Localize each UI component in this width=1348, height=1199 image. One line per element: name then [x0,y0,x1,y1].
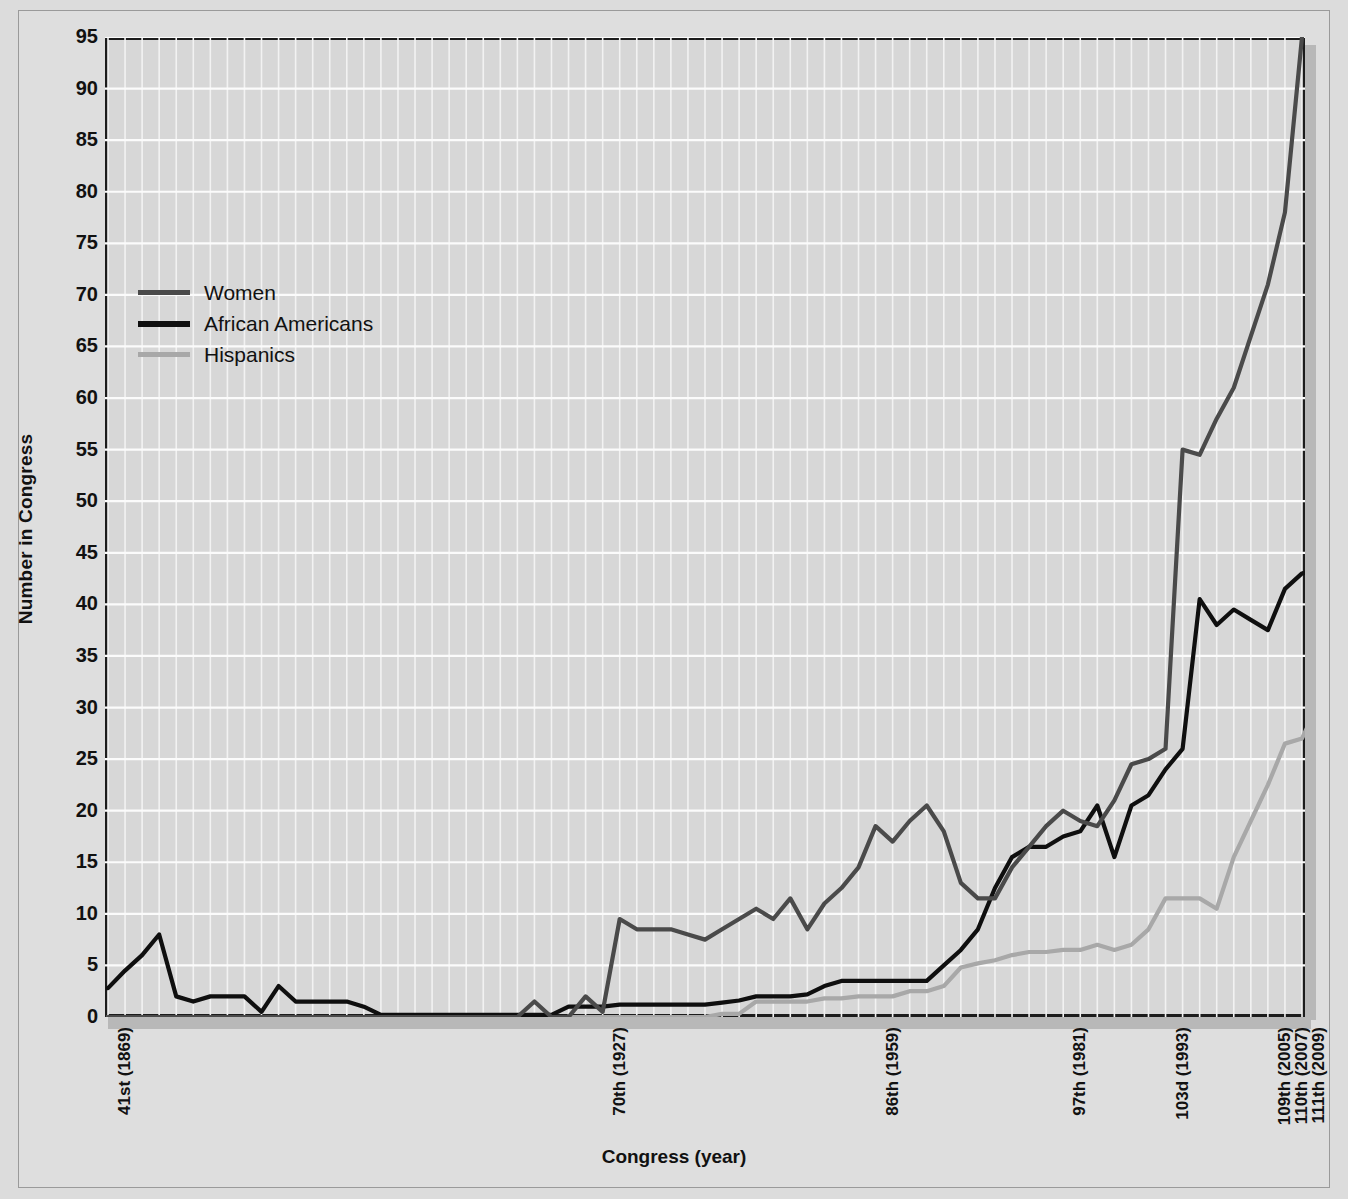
plot-wrapper [105,37,1305,1017]
y-tick-label: 20 [52,800,98,820]
legend-swatch-icon [138,290,190,295]
y-tick-label: 70 [52,284,98,304]
y-tick-label: 90 [52,78,98,98]
y-tick-label: 50 [52,490,98,510]
x-tick-label: 86th (1959) [883,1027,903,1116]
y-tick-label: 80 [52,181,98,201]
y-tick-label: 30 [52,697,98,717]
legend-item: Women [138,277,468,308]
y-tick-label: 85 [52,129,98,149]
y-tick-label: 60 [52,387,98,407]
legend-label: African Americans [204,312,373,336]
x-tick-label: 103d (1993) [1173,1027,1193,1120]
legend-label: Women [204,281,276,305]
y-tick-label: 65 [52,335,98,355]
y-tick-label: 35 [52,645,98,665]
legend-item: Hispanics [138,339,468,370]
chart-figure: 95908580757065605550454035302520151050 N… [0,0,1348,1199]
axis-base-shadow [108,1017,1311,1029]
legend-swatch-icon [138,352,190,357]
y-tick-label: 95 [52,26,98,46]
gridlines [105,37,1305,1017]
y-tick-label: 0 [52,1006,98,1026]
legend-item: African Americans [138,308,468,339]
y-tick-label: 5 [52,954,98,974]
y-tick-label: 25 [52,748,98,768]
y-tick-label: 55 [52,439,98,459]
y-tick-label: 15 [52,851,98,871]
chart-legend: WomenAfrican AmericansHispanics [138,277,468,370]
y-tick-label: 40 [52,593,98,613]
x-tick-label: 70th (1927) [610,1027,630,1116]
y-tick-label: 45 [52,542,98,562]
axis-right-shadow [1305,45,1316,1020]
y-tick-label: 10 [52,903,98,923]
x-tick-label: 97th (1981) [1070,1027,1090,1116]
y-axis-title: Number in Congress [15,289,37,769]
legend-swatch-icon [138,321,190,327]
x-tick-label: 111th (2009) [1309,1027,1329,1123]
series-line [108,702,1305,1017]
x-axis-title: Congress (year) [0,1146,1348,1168]
legend-label: Hispanics [204,343,295,367]
x-tick-label: 41st (1869) [115,1027,135,1115]
y-axis-tick-labels: 95908580757065605550454035302520151050 [46,0,98,1060]
chart-lines [105,37,1305,1017]
y-tick-label: 75 [52,232,98,252]
